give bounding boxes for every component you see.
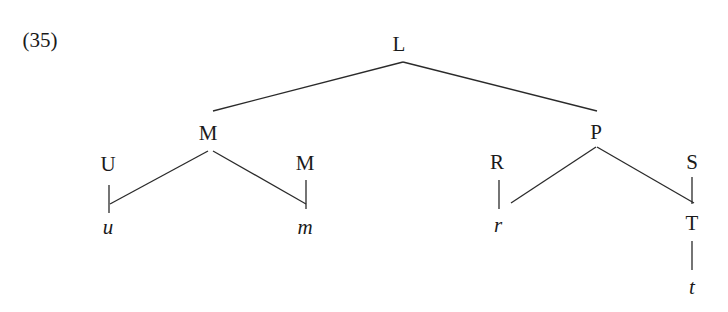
- node-L: L: [393, 34, 406, 55]
- edge-M1-U: [110, 151, 208, 204]
- node-S: S: [686, 152, 698, 173]
- edge-L-M1: [213, 62, 403, 111]
- node-M1: M: [199, 123, 218, 144]
- node-u: u: [103, 217, 114, 238]
- node-r: r: [494, 215, 502, 236]
- node-t: t: [689, 277, 695, 298]
- node-m: m: [297, 217, 312, 238]
- example-number: (35): [23, 30, 58, 51]
- node-P: P: [590, 122, 602, 143]
- edge-P-S: [597, 147, 694, 203]
- node-R: R: [490, 152, 504, 173]
- edge-L-P: [403, 62, 597, 111]
- node-T: T: [686, 213, 699, 234]
- edge-P-R: [511, 147, 596, 203]
- edge-M1-M2: [213, 151, 306, 204]
- node-U: U: [100, 154, 115, 175]
- tree-diagram: (35) LMPUMRSumrTt: [0, 0, 728, 312]
- node-M2: M: [296, 153, 315, 174]
